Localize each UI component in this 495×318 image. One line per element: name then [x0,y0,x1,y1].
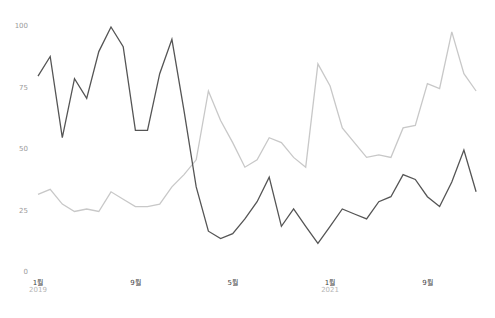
y-tick-label: 0 [0,268,28,276]
y-tick-label: 75 [0,84,28,92]
y-tick-label: 100 [0,22,28,30]
series-light-line [38,32,476,212]
line-chart: 0255075100 1월20199월5월1월20219월 [0,0,495,318]
y-tick-label: 25 [0,207,28,215]
x-tick-label: 5월 [227,277,237,287]
y-tick-label: 50 [0,145,28,153]
plot-area [0,0,495,318]
x-tick-label: 9월 [422,277,432,287]
x-year-label: 2019 [29,286,47,294]
series-dark-line [38,27,476,244]
x-tick-label: 9월 [130,277,140,287]
x-year-label: 2021 [321,286,339,294]
